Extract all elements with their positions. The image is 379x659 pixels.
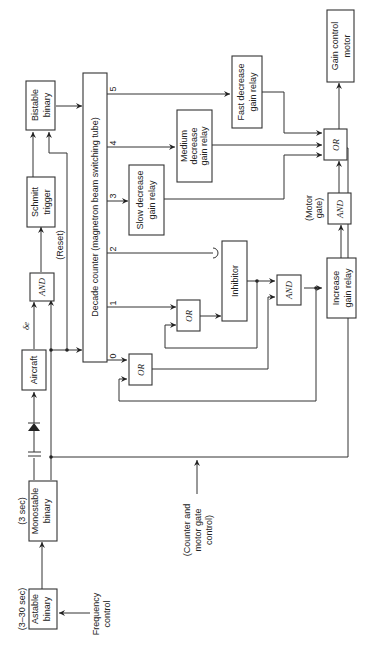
svg-text:gain relay: gain relay <box>343 268 353 308</box>
svg-text:Decade counter (magnetron beam: Decade counter (magnetron beam switching… <box>90 117 100 317</box>
decade-counter-block: Decade counter (magnetron beam switching… <box>83 73 107 362</box>
svg-text:Bistable: Bistable <box>30 89 40 121</box>
svg-text:OR: OR <box>331 139 341 151</box>
svg-text:Inhibitor: Inhibitor <box>230 265 240 297</box>
gain-control-motor-block: Gain control motor <box>327 10 354 82</box>
svg-text:5: 5 <box>108 86 118 91</box>
svg-text:Fast decrease: Fast decrease <box>236 63 246 120</box>
svg-text:Schmitt: Schmitt <box>30 187 40 218</box>
increase-gain-relay-block: Increase gain relay <box>327 258 356 318</box>
svg-text:3: 3 <box>108 193 118 198</box>
svg-text:binary: binary <box>42 498 52 523</box>
counter-output-labels: 5 4 3 2 1 0 <box>108 86 118 358</box>
svg-text:AND: AND <box>37 277 47 297</box>
svg-text:(Motor: (Motor <box>304 195 314 221</box>
svg-text:Increase: Increase <box>331 271 341 306</box>
svg-text:AND: AND <box>335 199 345 219</box>
svg-text:2: 2 <box>108 246 118 251</box>
svg-text:binary: binary <box>42 596 52 621</box>
and-gate-motor: AND (Motor gate) <box>304 193 351 224</box>
svg-text:(3–30 sec): (3–30 sec) <box>17 588 27 631</box>
svg-text:1: 1 <box>108 300 118 305</box>
counter-motor-gate-control-label: (Counter and motor gate control) <box>182 504 214 557</box>
svg-text:binary: binary <box>42 92 52 117</box>
astable-binary-block: Astable binary (3–30 sec) <box>17 588 57 631</box>
svg-text:0: 0 <box>108 353 118 358</box>
schmitt-trigger-block: Schmitt trigger <box>27 177 55 227</box>
frequency-control-label: Frequency control <box>91 592 112 635</box>
svg-text:Astable: Astable <box>30 594 40 624</box>
block-diagram: Astable binary (3–30 sec) Frequency cont… <box>0 0 379 659</box>
svg-text:control): control) <box>204 515 214 545</box>
svg-text:δe: δe <box>21 322 31 330</box>
or-gate-final: OR <box>324 129 347 160</box>
svg-text:Aircraft: Aircraft <box>29 355 39 384</box>
svg-text:gain relay: gain relay <box>199 126 209 166</box>
svg-text:(Reset): (Reset) <box>55 230 65 260</box>
svg-text:OR: OR <box>184 310 194 322</box>
fast-decrease-relay-block: Fast decrease gain relay <box>232 56 262 128</box>
svg-text:4: 4 <box>108 140 118 145</box>
svg-text:decrease: decrease <box>189 127 199 164</box>
svg-text:Monostable: Monostable <box>30 488 40 535</box>
svg-text:Gain control: Gain control <box>330 22 340 71</box>
svg-text:OR: OR <box>136 364 146 376</box>
svg-text:control: control <box>102 600 112 627</box>
or-gate-0: OR <box>129 354 152 385</box>
inhibitor-block: Inhibitor <box>222 241 247 321</box>
svg-text:(Counter and: (Counter and <box>182 504 192 557</box>
medium-decrease-relay-block: Medium decrease gain relay <box>177 110 212 182</box>
or-gate-1: OR <box>177 300 200 331</box>
svg-text:trigger: trigger <box>42 189 52 215</box>
svg-text:Medium: Medium <box>179 130 189 162</box>
svg-text:motor: motor <box>342 34 352 57</box>
monostable-binary-block: Monostable binary (3 sec) <box>17 481 57 541</box>
bistable-binary-block: Bistable binary <box>26 81 55 130</box>
and-gate-increase: AND <box>277 275 301 305</box>
and-gate-reset: AND (Reset) <box>30 230 65 301</box>
svg-text:Slow decrease: Slow decrease <box>135 170 145 229</box>
svg-text:motor gate: motor gate <box>193 508 203 551</box>
svg-text:gain relay: gain relay <box>248 72 258 112</box>
svg-text:AND: AND <box>284 280 294 300</box>
svg-text:(3 sec): (3 sec) <box>17 497 27 525</box>
svg-text:Frequency: Frequency <box>91 592 101 635</box>
svg-text:gain relay: gain relay <box>147 180 157 220</box>
slow-decrease-relay-block: Slow decrease gain relay <box>129 165 164 235</box>
svg-text:gate): gate) <box>314 198 324 219</box>
